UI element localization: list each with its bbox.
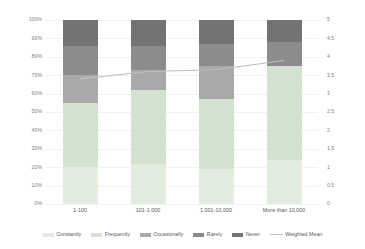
x-axis-label-3: More than 10,000 bbox=[244, 208, 324, 213]
legend-item-frequently[interactable]: Frequently bbox=[91, 232, 130, 237]
legend-swatch-icon bbox=[91, 233, 102, 236]
legend-label: Occasionally bbox=[153, 232, 183, 237]
legend-item-occasionally[interactable]: Occasionally bbox=[140, 232, 184, 237]
y-right-tick-3: 3 bbox=[327, 91, 361, 96]
legend-label: Weighted Mean bbox=[285, 232, 322, 237]
y-left-tick-70pct: 70% bbox=[2, 73, 42, 78]
legend-label: Rarely bbox=[207, 232, 222, 237]
legend-label: Constantly bbox=[56, 232, 81, 237]
legend-item-weighted-mean[interactable]: Weighted Mean bbox=[270, 232, 323, 237]
y-left-tick-0pct: 0% bbox=[2, 201, 42, 206]
y-left-tick-100pct: 100% bbox=[2, 17, 42, 22]
legend-item-constantly[interactable]: Constantly bbox=[43, 232, 82, 237]
stacked-bar-chart: 0%10%20%30%40%50%60%70%80%90%100% 00.511… bbox=[0, 0, 365, 249]
y-left-tick-30pct: 30% bbox=[2, 146, 42, 151]
y-right-tick-4: 4 bbox=[327, 54, 361, 59]
y-left-tick-50pct: 50% bbox=[2, 109, 42, 114]
y-right-tick-2: 2 bbox=[327, 128, 361, 133]
y-right-tick-1p5: 1.5 bbox=[327, 146, 361, 151]
y-right-tick-3p5: 3.5 bbox=[327, 73, 361, 78]
y-right-tick-5: 5 bbox=[327, 17, 361, 22]
y-right-tick-0: 0 bbox=[327, 201, 361, 206]
y-right-tick-4p5: 4.5 bbox=[327, 36, 361, 41]
y-left-tick-60pct: 60% bbox=[2, 91, 42, 96]
y-left-tick-20pct: 20% bbox=[2, 165, 42, 170]
legend-swatch-icon bbox=[193, 233, 204, 236]
y-right-tick-1: 1 bbox=[327, 165, 361, 170]
legend-swatch-icon bbox=[232, 233, 243, 236]
legend-label: Never bbox=[246, 232, 260, 237]
y-left-tick-90pct: 90% bbox=[2, 36, 42, 41]
plot-area bbox=[46, 20, 318, 204]
y-right-tick-0p5: 0.5 bbox=[327, 183, 361, 188]
legend-swatch-icon bbox=[43, 233, 54, 236]
weighted-mean-line bbox=[46, 20, 318, 204]
legend-item-never[interactable]: Never bbox=[232, 232, 260, 237]
legend-item-rarely[interactable]: Rarely bbox=[193, 232, 222, 237]
legend-line-icon bbox=[270, 234, 283, 235]
y-right-tick-2p5: 2.5 bbox=[327, 109, 361, 114]
legend-swatch-icon bbox=[140, 233, 151, 236]
gridline bbox=[46, 204, 318, 205]
y-left-tick-80pct: 80% bbox=[2, 54, 42, 59]
legend-label: Frequently bbox=[105, 232, 130, 237]
weighted-mean-polyline bbox=[80, 60, 284, 78]
y-left-tick-40pct: 40% bbox=[2, 128, 42, 133]
chart-legend: ConstantlyFrequentlyOccasionallyRarelyNe… bbox=[0, 229, 365, 241]
y-left-tick-10pct: 10% bbox=[2, 183, 42, 188]
